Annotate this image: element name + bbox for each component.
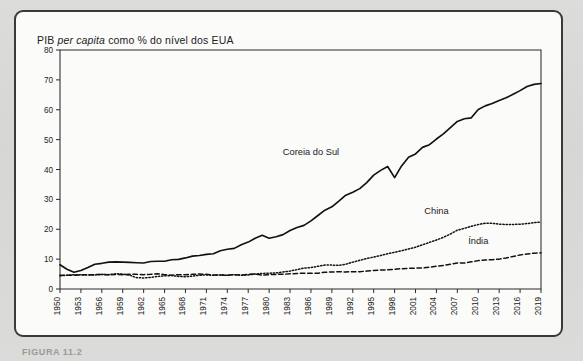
- x-tick-label: 2013: [492, 297, 501, 316]
- x-tick-label: 2007: [450, 297, 459, 316]
- x-tick-label: 1995: [367, 297, 376, 316]
- x-tick-label: 1992: [346, 297, 355, 316]
- x-tick-label: 1950: [53, 297, 62, 316]
- figure-frame: PIB per capita como % do nível dos EUA 0…: [14, 10, 563, 337]
- x-tick-label: 1977: [241, 297, 250, 316]
- line-chart: 0102030405060708019501953195619591962196…: [16, 12, 561, 335]
- x-tick-label: 1980: [262, 297, 271, 316]
- x-tick-label: 1971: [199, 297, 208, 316]
- x-tick-label: 1986: [304, 297, 313, 316]
- x-tick-label: 2019: [534, 297, 543, 316]
- x-tick-label: 2016: [513, 297, 522, 316]
- x-tick-label: 1956: [95, 297, 104, 316]
- series-label-china: China: [424, 206, 449, 216]
- y-tick-label: 80: [44, 46, 54, 55]
- series-line-china: [60, 222, 541, 278]
- y-tick-label: 40: [44, 166, 54, 175]
- x-tick-label: 2001: [409, 297, 418, 316]
- x-tick-label: 1962: [137, 297, 146, 316]
- x-tick-label: 1998: [388, 297, 397, 316]
- y-tick-label: 20: [44, 225, 54, 234]
- x-tick-label: 1965: [158, 297, 167, 316]
- series-label-coreia-do-sul: Coreia do Sul: [283, 147, 339, 157]
- y-tick-label: 30: [44, 195, 54, 204]
- plot-area-border: [60, 50, 541, 289]
- figure-caption: FIGURA 11.2: [22, 347, 82, 357]
- x-tick-label: 1959: [116, 297, 125, 316]
- y-tick-label: 60: [44, 106, 54, 115]
- figure-inner: PIB per capita como % do nível dos EUA 0…: [16, 12, 561, 335]
- x-tick-label: 1953: [74, 297, 83, 316]
- x-tick-label: 1968: [178, 297, 187, 316]
- x-tick-label: 1974: [220, 297, 229, 316]
- x-tick-label: 1989: [325, 297, 334, 316]
- y-tick-label: 10: [44, 255, 54, 264]
- y-tick-label: 0: [48, 285, 53, 294]
- y-tick-label: 50: [44, 136, 54, 145]
- series-line-índia: [60, 253, 541, 275]
- x-tick-label: 2004: [429, 297, 438, 316]
- y-tick-label: 70: [44, 76, 54, 85]
- x-tick-label: 2010: [471, 297, 480, 316]
- series-label-índia: Índia: [468, 236, 489, 246]
- x-tick-label: 1983: [283, 297, 292, 316]
